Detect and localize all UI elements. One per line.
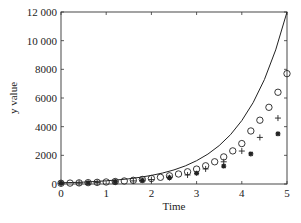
circle-marker <box>121 178 127 184</box>
x-tick-label: 4 <box>239 187 245 199</box>
series-layer <box>58 12 290 186</box>
star-marker <box>140 178 145 183</box>
plus-marker <box>148 177 154 183</box>
circle-marker <box>257 117 263 123</box>
curve-line <box>61 12 287 183</box>
circle-marker <box>248 128 254 134</box>
x-tick-label: 5 <box>284 187 290 199</box>
star-marker <box>59 181 64 186</box>
y-axis: 0200040006000800010 00012 000 <box>27 6 287 190</box>
star-marker <box>113 179 118 184</box>
plus-marker <box>239 148 245 154</box>
scatter-chart: 0200040006000800010 00012 000 012345 Tim… <box>0 0 301 223</box>
circle-marker <box>275 89 281 95</box>
plus-marker <box>275 115 281 121</box>
star-marker <box>248 151 253 156</box>
star-marker <box>86 180 91 185</box>
plot-frame <box>61 12 287 184</box>
star-marker <box>275 131 280 136</box>
plus-marker <box>185 172 191 178</box>
y-tick-label: 8000 <box>35 63 58 75</box>
circle-marker <box>239 140 245 146</box>
star-marker <box>167 175 172 180</box>
x-tick-label: 3 <box>194 187 200 199</box>
circle-marker <box>266 104 272 110</box>
series-circles <box>58 70 290 186</box>
y-tick-label: 12 000 <box>27 6 58 18</box>
plus-marker <box>203 166 209 172</box>
series-stars <box>59 131 281 185</box>
y-tick-label: 4000 <box>35 121 58 133</box>
y-tick-label: 2000 <box>35 149 58 161</box>
x-tick-label: 0 <box>58 187 64 199</box>
x-tick-label: 1 <box>103 187 109 199</box>
plus-marker <box>257 134 263 140</box>
y-axis-label: y value <box>7 82 19 114</box>
star-marker <box>194 171 199 176</box>
y-tick-label: 6000 <box>35 92 58 104</box>
x-axis: 012345 <box>58 12 290 199</box>
x-axis-label: Time <box>163 200 186 212</box>
series-exact-solution <box>61 12 287 183</box>
circle-marker <box>211 159 217 165</box>
circle-marker <box>230 148 236 154</box>
y-tick-label: 0 <box>52 178 58 190</box>
y-tick-label: 10 000 <box>27 35 58 47</box>
circle-marker <box>175 171 181 177</box>
circle-marker <box>157 174 163 180</box>
x-tick-label: 2 <box>149 187 155 199</box>
plot-border <box>61 12 287 184</box>
star-marker <box>221 164 226 169</box>
